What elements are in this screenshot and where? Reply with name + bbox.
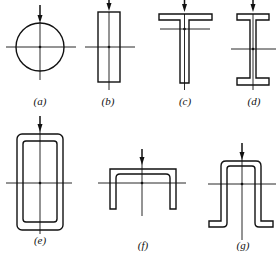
load-arrow-icon [38,116,43,132]
section-a-circle: (a) [6,5,76,108]
label-g: (g) [237,239,250,252]
label-a: (a) [34,95,47,108]
load-arrow-icon [38,5,43,23]
load-arrow-icon [140,149,145,165]
section-b-rectangle: (b) [85,0,135,108]
label-e: (e) [34,234,47,247]
label-d: (d) [248,95,261,108]
section-c-t-beam: (c) [159,0,212,108]
section-f-channel: (f) [98,149,186,252]
load-arrow-icon [182,0,187,12]
load-arrow-icon [240,143,245,160]
load-arrow-icon [107,0,112,11]
section-g-hat: (g) [208,143,276,252]
label-c: (c) [179,95,192,108]
cross-sections-diagram: (a) (b) (c) (d) [0,0,278,263]
label-f: (f) [138,239,149,252]
section-e-hollow-box: (e) [6,116,72,247]
load-arrow-icon [251,0,256,12]
section-d-i-beam: (d) [231,0,276,108]
label-b: (b) [102,95,115,108]
